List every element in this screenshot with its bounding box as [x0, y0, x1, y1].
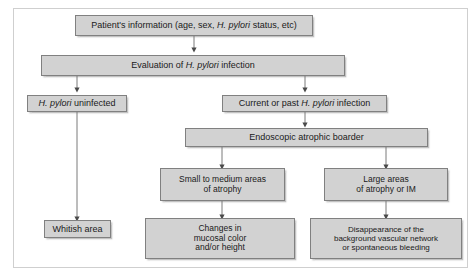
line-2: of atrophy [204, 184, 242, 194]
node-changes-mucosal-color-label: Changes in mucosal color and/or height [191, 224, 249, 253]
line-1: Disappearance of the [348, 225, 424, 234]
node-changes-mucosal-color[interactable]: Changes in mucosal color and/or height [145, 218, 295, 259]
node-patient-information[interactable]: Patient's information (age, sex, H. pylo… [75, 15, 313, 36]
line-3: or spontaneous bleeding [342, 243, 430, 252]
node-current-or-past-infection-label: Current or past H. pylori infection [236, 98, 374, 108]
line-1: Small to medium areas [179, 174, 266, 184]
node-disappearance-vascular-network[interactable]: Disappearance of the background vascular… [310, 218, 462, 259]
node-h-pylori-uninfected-label: H. pylori uninfected [35, 98, 118, 108]
node-small-to-medium-atrophy[interactable]: Small to medium areas of atrophy [160, 168, 285, 201]
line-2: mucosal color [194, 233, 246, 243]
node-current-or-past-infection[interactable]: Current or past H. pylori infection [222, 95, 387, 112]
line-2: of atrophy or IM [356, 184, 416, 194]
line-1: Large areas [363, 174, 408, 184]
node-whitish-area-label: Whitish area [49, 224, 105, 234]
node-evaluation-h-pylori-infection-label: Evaluation of H. pylori infection [128, 60, 258, 70]
line-1: Changes in [198, 223, 241, 233]
node-evaluation-h-pylori-infection[interactable]: Evaluation of H. pylori infection [41, 55, 345, 76]
line-2: background vascular network [334, 234, 438, 243]
node-endoscopic-atrophic-boarder[interactable]: Endoscopic atrophic boarder [185, 128, 428, 147]
node-h-pylori-uninfected[interactable]: H. pylori uninfected [27, 95, 127, 112]
node-small-to-medium-atrophy-label: Small to medium areas of atrophy [176, 175, 269, 195]
node-patient-information-label: Patient's information (age, sex, H. pylo… [88, 20, 299, 30]
node-disappearance-vascular-network-label: Disappearance of the background vascular… [331, 225, 441, 253]
node-large-areas-atrophy-im[interactable]: Large areas of atrophy or IM [324, 168, 448, 201]
node-whitish-area[interactable]: Whitish area [44, 220, 111, 238]
node-large-areas-atrophy-im-label: Large areas of atrophy or IM [353, 175, 419, 195]
line-3: and/or height [195, 242, 245, 252]
node-endoscopic-atrophic-boarder-label: Endoscopic atrophic boarder [246, 132, 367, 142]
